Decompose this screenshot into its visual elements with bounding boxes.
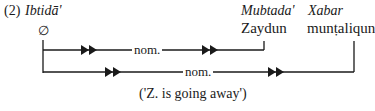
double-arrow-icon: [202, 45, 218, 55]
edge-label-mubtada: nom.: [132, 43, 162, 56]
double-arrow-icon: [81, 45, 97, 55]
translation: ('Z. is going away'): [139, 87, 247, 101]
edge-label-xabar: nom.: [183, 65, 213, 78]
double-arrow-icon: [268, 67, 284, 77]
double-arrow-icon: [105, 67, 121, 77]
